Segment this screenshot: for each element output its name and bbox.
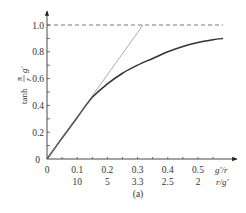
svg-text:π: π	[15, 77, 24, 81]
linear-tangent-line	[47, 25, 143, 159]
y-tick-label: 0.6	[32, 74, 44, 84]
svg-text:tanh: tanh	[19, 88, 29, 104]
y-tick-label: 0.4	[32, 101, 44, 111]
x-axis-label: g′/r	[215, 165, 228, 175]
x-tick-label: 0.1	[71, 165, 83, 175]
chart: 00.1100.250.33.30.42.50.52 00.20.40.60.8…	[0, 0, 246, 213]
y-tick-label: 1.0	[32, 21, 44, 31]
x-tick-label: 0	[45, 165, 50, 175]
x-tick-label-secondary: 2.5	[162, 177, 174, 187]
x-tick-label-secondary: 3.3	[132, 177, 144, 187]
y-tick-label: 0	[35, 155, 40, 165]
y-tick-label: 0.8	[32, 47, 44, 57]
y-tick-label: 0.2	[32, 128, 44, 138]
x-tick-label: 0.5	[192, 165, 204, 175]
tanh-curve-line	[47, 38, 223, 159]
x-tick-label: 0.4	[162, 165, 174, 175]
x-ticks: 00.1100.250.33.30.42.50.52	[45, 157, 213, 187]
x-axis-label-secondary: r/g′	[216, 177, 230, 187]
x-tick-label-secondary: 2	[196, 177, 201, 187]
x-tick-label: 0.2	[101, 165, 113, 175]
x-tick-label: 0.3	[132, 165, 144, 175]
x-tick-label-secondary: 5	[105, 177, 110, 187]
svg-text:g′: g′	[19, 66, 29, 74]
x-tick-label-secondary: 10	[72, 177, 82, 187]
y-axis-label: tanh π r g′	[15, 66, 33, 105]
series	[47, 25, 223, 159]
chart-caption: (a)	[133, 189, 144, 200]
